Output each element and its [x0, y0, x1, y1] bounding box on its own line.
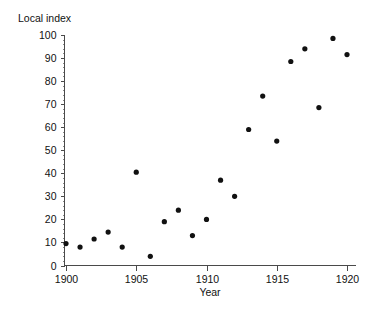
data-point: [92, 236, 97, 241]
y-tick-label: 20: [45, 213, 57, 225]
x-tick-label: 1910: [196, 273, 220, 285]
y-axis-tick-labels: 0102030405060708090100: [39, 29, 57, 272]
scatter-chart: 0102030405060708090100 19001905191019151…: [0, 0, 377, 314]
y-tick-label: 40: [45, 167, 57, 179]
data-point: [316, 105, 321, 110]
y-axis-major-ticks: [61, 36, 65, 267]
y-tick-label: 60: [45, 121, 57, 133]
data-point: [176, 208, 181, 213]
x-axis-major-ticks: [67, 266, 348, 271]
data-point: [63, 241, 68, 246]
data-point: [77, 244, 82, 249]
data-point: [288, 59, 293, 64]
data-point: [162, 219, 167, 224]
data-point: [260, 93, 265, 98]
data-point: [190, 233, 195, 238]
data-point: [302, 46, 307, 51]
y-tick-label: 50: [45, 144, 57, 156]
y-axis-title: Local index: [18, 12, 72, 24]
y-tick-label: 10: [45, 236, 57, 248]
x-tick-label: 1905: [125, 273, 149, 285]
y-tick-label: 80: [45, 75, 57, 87]
data-point: [344, 52, 349, 57]
data-point: [106, 229, 111, 234]
y-tick-label: 100: [39, 29, 57, 41]
data-point: [232, 194, 237, 199]
y-tick-label: 30: [45, 190, 57, 202]
y-tick-label: 90: [45, 52, 57, 64]
x-axis-title: Year: [199, 286, 221, 298]
data-point: [246, 127, 251, 132]
data-point: [330, 36, 335, 41]
y-tick-label: 0: [51, 260, 57, 272]
data-point: [148, 254, 153, 259]
data-point: [204, 217, 209, 222]
data-point: [120, 244, 125, 249]
x-tick-label: 1915: [266, 273, 290, 285]
data-point: [274, 138, 279, 143]
data-point-series: [63, 36, 349, 259]
y-tick-label: 70: [45, 98, 57, 110]
data-point: [218, 178, 223, 183]
data-point: [134, 170, 139, 175]
plot-area: 0102030405060708090100 19001905191019151…: [0, 0, 377, 314]
x-tick-label: 1900: [55, 273, 79, 285]
x-tick-label: 1920: [336, 273, 360, 285]
x-axis-tick-labels: 19001905191019151920: [55, 273, 360, 285]
